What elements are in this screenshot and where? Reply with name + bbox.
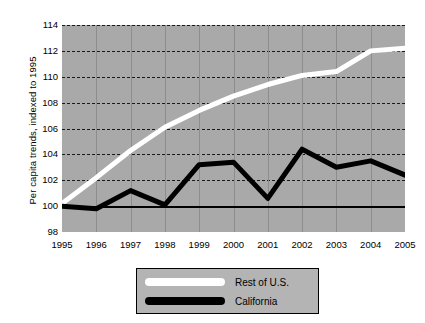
series-lines xyxy=(62,25,405,232)
plot-area xyxy=(62,25,405,232)
legend-label-california: California xyxy=(235,296,277,307)
chart-legend: Rest of U.S. California xyxy=(136,268,319,314)
reference-line xyxy=(62,206,405,208)
x-axis-tick-labels: 1995199619971998199920002001200220032004… xyxy=(0,239,425,253)
y-tick-label-100: 100 xyxy=(32,201,58,211)
legend-item-rest-of-us: Rest of U.S. xyxy=(145,274,313,290)
chart-figure: Per capita trends, indexed to 1995 11411… xyxy=(0,0,425,323)
y-axis-tick-labels: 11411211010810610410210098 xyxy=(30,0,58,323)
y-tick-label-104: 104 xyxy=(32,149,58,159)
y-tick-label-102: 102 xyxy=(32,175,58,185)
series-line-california xyxy=(62,149,405,209)
black-line-swatch xyxy=(145,297,225,305)
x-tick-label-2005: 2005 xyxy=(385,239,425,250)
y-tick-label-106: 106 xyxy=(32,124,58,134)
y-tick-label-108: 108 xyxy=(32,98,58,108)
legend-label-rest-of-us: Rest of U.S. xyxy=(235,277,289,288)
series-line-rest-of-u-s xyxy=(62,48,405,203)
white-line-swatch xyxy=(145,278,225,286)
y-tick-label-98: 98 xyxy=(32,227,58,237)
y-tick-label-112: 112 xyxy=(32,46,58,56)
legend-item-california: California xyxy=(145,293,313,309)
y-tick-label-110: 110 xyxy=(32,72,58,82)
y-tick-label-114: 114 xyxy=(32,20,58,30)
